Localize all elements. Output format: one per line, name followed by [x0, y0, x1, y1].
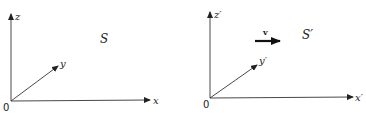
frame-s-prime: z′ x′ y′ 0 S′ v	[203, 9, 364, 110]
frame-s: z x y 0 S	[3, 11, 159, 113]
y-axis	[11, 66, 58, 101]
x-prime-axis-label: x′	[355, 92, 364, 103]
z-prime-axis-label: z′	[213, 9, 222, 20]
x-axis	[11, 100, 150, 101]
reference-frames-diagram: z x y 0 S z′ x′ y′ 0 S′ v	[0, 0, 366, 117]
x-axis-label: x	[153, 95, 159, 106]
y-prime-axis	[210, 65, 257, 98]
y-prime-axis-label: y′	[258, 55, 268, 66]
origin-label: 0	[3, 102, 9, 113]
frame-label: S	[100, 32, 108, 46]
y-axis-label: y	[59, 58, 66, 69]
origin-prime-label: 0	[203, 99, 209, 110]
z-axis-label: z	[14, 11, 21, 22]
velocity-label: v	[262, 27, 268, 37]
x-prime-axis	[210, 97, 353, 98]
frame-prime-label: S′	[302, 28, 313, 42]
